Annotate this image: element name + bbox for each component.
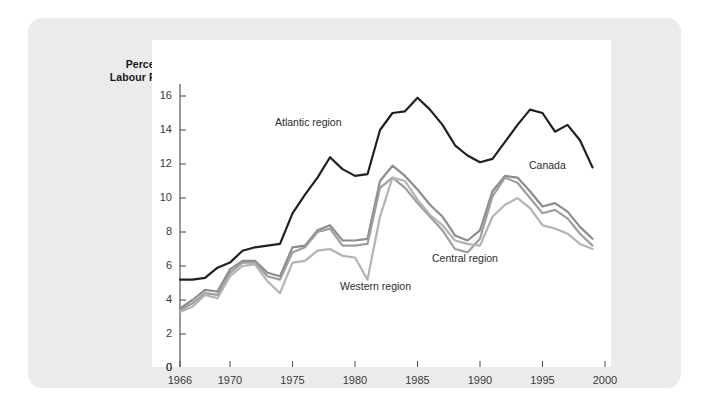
y-tick-label: 2: [146, 327, 172, 339]
axes-group: [180, 84, 605, 367]
x-tick-label: 1980: [335, 374, 375, 386]
series-label-central-region: Central region: [432, 252, 498, 264]
y-tick-label: 4: [146, 293, 172, 305]
series-label-western-region: Western region: [340, 280, 411, 292]
series-label-atlantic-region: Atlantic region: [275, 116, 342, 128]
line-chart-svg: [152, 40, 611, 367]
x-tick-label: 1985: [398, 374, 438, 386]
x-tick-label: 2000: [585, 374, 625, 386]
x-tick-label: 1975: [273, 374, 313, 386]
y-tick-label: 8: [146, 225, 172, 237]
y-tick-label: 16: [146, 89, 172, 101]
plot-area: [152, 40, 611, 367]
y-tick-label: 14: [146, 123, 172, 135]
y-tick-label-zero: 0: [146, 361, 172, 373]
y-tick-label: 6: [146, 259, 172, 271]
series-label-canada: Canada: [529, 159, 566, 171]
x-tick-label: 1970: [210, 374, 250, 386]
x-tick-label: 1990: [460, 374, 500, 386]
chart-card: Percent of Labour Force 02468101214160 1…: [28, 18, 681, 388]
y-tick-label: 12: [146, 157, 172, 169]
y-tick-label: 10: [146, 191, 172, 203]
x-tick-label: 1966: [160, 374, 200, 386]
x-tick-label: 1995: [523, 374, 563, 386]
series-line-atlantic-region: [180, 98, 593, 280]
